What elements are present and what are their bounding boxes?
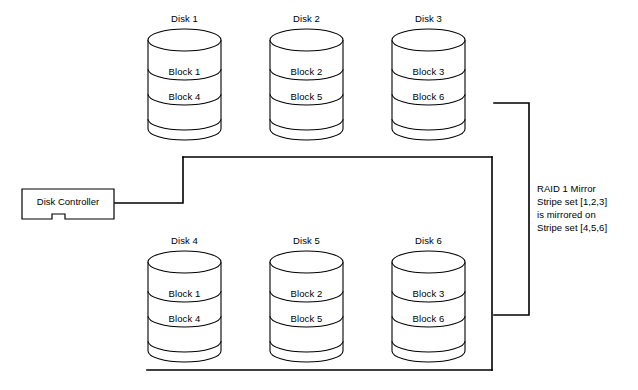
- raid-mirror-annotation: RAID 1 Mirror Stripe set [1,2,3] is mirr…: [537, 182, 637, 234]
- annotation-line-1: RAID 1 Mirror: [537, 182, 637, 195]
- cylinder-icon: [391, 28, 466, 141]
- block-label: Block 3: [391, 66, 466, 77]
- annotation-line-4: Stripe set [4,5,6]: [537, 221, 637, 234]
- block-label: Block 1: [147, 288, 222, 299]
- disk-caption: Disk 1: [147, 13, 222, 24]
- disk-controller-label: Disk Controller: [21, 196, 115, 207]
- cylinder-icon: [391, 250, 466, 363]
- annotation-line-3: is mirrored on: [537, 208, 637, 221]
- annotation-line-2: Stripe set [1,2,3]: [537, 195, 637, 208]
- disk-caption: Disk 5: [269, 235, 344, 246]
- cylinder-icon: [269, 28, 344, 141]
- block-label: Block 2: [269, 66, 344, 77]
- disk-caption: Disk 4: [147, 235, 222, 246]
- block-label: Block 1: [147, 66, 222, 77]
- disk-caption: Disk 6: [391, 235, 466, 246]
- block-label: Block 6: [391, 313, 466, 324]
- block-label: Block 4: [147, 313, 222, 324]
- controller-to-top-bus-wire: [115, 157, 183, 203]
- disk-caption: Disk 3: [391, 13, 466, 24]
- block-label: Block 4: [147, 91, 222, 102]
- block-label: Block 5: [269, 91, 344, 102]
- disk-caption: Disk 2: [269, 13, 344, 24]
- cylinder-icon: [269, 250, 344, 363]
- block-label: Block 3: [391, 288, 466, 299]
- block-label: Block 2: [269, 288, 344, 299]
- mirror-bracket: [494, 103, 529, 315]
- raid-diagram-canvas: Disk 1 Block 1 Block 4 Disk 2 Block 2: [0, 0, 638, 390]
- block-label: Block 6: [391, 91, 466, 102]
- cylinder-icon: [147, 250, 222, 363]
- disk-controller-node: Disk Controller: [21, 188, 115, 220]
- block-label: Block 5: [269, 313, 344, 324]
- cylinder-icon: [147, 28, 222, 141]
